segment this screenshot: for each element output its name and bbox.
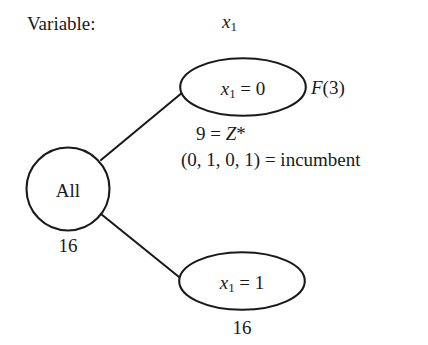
fathom-note-f3: F(3) xyxy=(311,78,345,97)
column-header-subscript: 1 xyxy=(230,19,236,34)
objective-prefix: 9 = xyxy=(196,123,226,144)
node-x1-equals-1[interactable]: x1 = 1 xyxy=(178,251,306,311)
node-root-label: All xyxy=(25,181,111,200)
objective-star: * xyxy=(236,123,246,144)
node-x1-equals-1-label: x1 = 1 xyxy=(178,273,306,295)
node-x1-equals-0[interactable]: x1 = 0 xyxy=(179,57,307,117)
column-header-x1: x1 xyxy=(222,12,237,34)
fathom-note-arg: (3) xyxy=(323,77,345,98)
objective-var-z: Z xyxy=(226,123,237,144)
fathom-note-f: F xyxy=(311,77,323,98)
node-x1-0-var: x xyxy=(221,78,229,99)
annotation-incumbent: (0, 1, 0, 1) = incumbent xyxy=(181,150,361,169)
annotation-objective-value: 9 = Z* xyxy=(196,124,246,143)
variable-label: Variable: xyxy=(27,14,96,33)
edge-root-to-x1-1 xyxy=(101,214,184,281)
node-x1-equals-0-label: x1 = 0 xyxy=(179,79,307,101)
x1-1-count: 16 xyxy=(178,318,306,337)
node-x1-0-relation: = 0 xyxy=(236,78,266,99)
node-root-all[interactable]: All xyxy=(25,146,111,232)
node-x1-1-var: x xyxy=(220,272,228,293)
root-count: 16 xyxy=(25,236,111,255)
diagram-canvas: Variable: x1 All 16 x1 = 0 F(3) 9 = Z* (… xyxy=(0,0,428,345)
node-x1-1-relation: = 1 xyxy=(235,272,265,293)
edge-root-to-x1-0 xyxy=(101,92,183,160)
